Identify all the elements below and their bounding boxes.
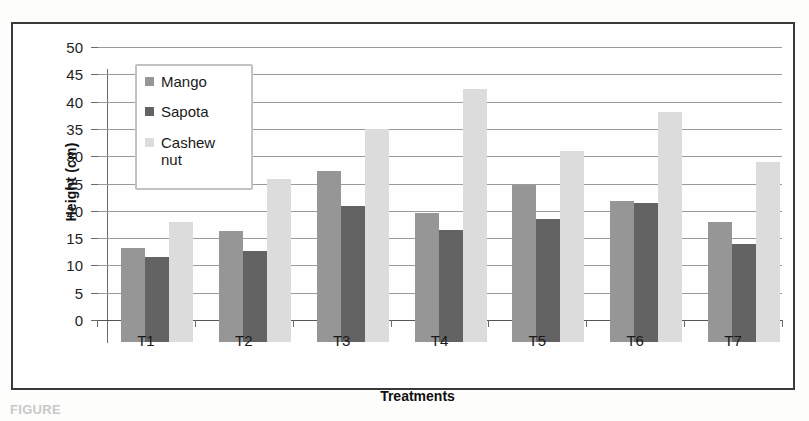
x-axis-tick — [293, 320, 294, 327]
bar-group-t5 — [512, 69, 584, 342]
bar-t3-sapota — [341, 206, 365, 343]
legend-swatch-icon — [145, 107, 154, 116]
y-axis-tick — [91, 47, 98, 48]
y-axis-tick — [91, 129, 98, 130]
x-axis-tick-label-t3: T3 — [307, 332, 377, 349]
bar-t1-cashew-nut — [169, 222, 193, 342]
y-axis-tick — [91, 238, 98, 239]
bar-t5-cashew-nut — [560, 151, 584, 342]
bar-t2-mango — [219, 231, 243, 342]
legend-item-cashew-nut: Cashew nut — [145, 134, 245, 169]
y-axis-tick — [91, 74, 98, 75]
y-axis-tick — [91, 102, 98, 103]
bar-t3-mango — [317, 171, 341, 342]
chart-legend: MangoSapotaCashew nut — [135, 64, 253, 190]
y-axis-tick-label: 30 — [45, 149, 83, 164]
bar-t4-mango — [415, 213, 439, 342]
bar-group-t3 — [317, 69, 389, 342]
bar-t2-cashew-nut — [267, 179, 291, 342]
y-axis-tick-label: 50 — [45, 40, 83, 55]
x-axis-tick — [684, 320, 685, 327]
x-axis-tick-label-t4: T4 — [405, 332, 475, 349]
y-axis-tick — [91, 293, 98, 294]
legend-swatch-icon — [145, 138, 154, 147]
x-axis-tick-label-t1: T1 — [111, 332, 181, 349]
bar-t6-mango — [610, 201, 634, 342]
gridline — [97, 47, 782, 48]
y-axis-tick — [91, 265, 98, 266]
x-axis-tick-label-t7: T7 — [698, 332, 768, 349]
y-axis-tick-label: 5 — [45, 286, 83, 301]
bar-t1-mango — [121, 248, 145, 342]
bar-t5-sapota — [536, 219, 560, 342]
x-axis-tick-label-t2: T2 — [209, 332, 279, 349]
y-axis-tick-label: 20 — [45, 204, 83, 219]
x-axis-tick — [391, 320, 392, 327]
y-axis-tick-label: 25 — [45, 177, 83, 192]
legend-label: Cashew nut — [161, 134, 215, 169]
y-axis-tick-label: 0 — [45, 313, 83, 328]
legend-swatch-icon — [145, 77, 154, 86]
y-axis-tick — [91, 211, 98, 212]
bar-t4-sapota — [439, 230, 463, 342]
legend-label: Sapota — [161, 103, 209, 120]
bar-t7-mango — [708, 222, 732, 342]
scanned-page: Height (cm) 05101520253035404550 T1T2T3T… — [0, 0, 809, 421]
bar-t5-mango — [512, 185, 536, 342]
x-axis-tick — [488, 320, 489, 327]
figure-frame: Height (cm) 05101520253035404550 T1T2T3T… — [11, 22, 795, 390]
bar-t6-cashew-nut — [658, 112, 682, 342]
figure-caption: FIGURE — [10, 402, 270, 415]
legend-item-mango: Mango — [145, 73, 245, 90]
y-axis-tick-label: 40 — [45, 95, 83, 110]
y-axis-tick-label: 35 — [45, 122, 83, 137]
x-axis-tick — [195, 320, 196, 327]
legend-label: Mango — [161, 73, 207, 90]
x-axis-tick-label-t6: T6 — [600, 332, 670, 349]
bar-t3-cashew-nut — [365, 129, 389, 342]
x-axis-tick — [586, 320, 587, 327]
x-axis-tick — [97, 320, 98, 327]
bar-t2-sapota — [243, 251, 267, 342]
y-axis-tick — [91, 184, 98, 185]
x-axis-tick — [782, 320, 783, 327]
y-axis-tick-label: 45 — [45, 67, 83, 82]
bar-t7-sapota — [732, 244, 756, 342]
bar-t4-cashew-nut — [463, 89, 487, 342]
y-axis-tick-label: 10 — [45, 258, 83, 273]
y-axis-tick — [91, 156, 98, 157]
bar-t7-cashew-nut — [756, 162, 780, 342]
bar-group-t4 — [415, 69, 487, 342]
bar-group-t6 — [610, 69, 682, 342]
y-axis-tick-label: 15 — [45, 231, 83, 246]
bar-t6-sapota — [634, 203, 658, 342]
bar-t1-sapota — [145, 257, 169, 342]
legend-item-sapota: Sapota — [145, 103, 245, 120]
x-axis-tick-label-t5: T5 — [502, 332, 572, 349]
bar-group-t7 — [708, 69, 780, 342]
